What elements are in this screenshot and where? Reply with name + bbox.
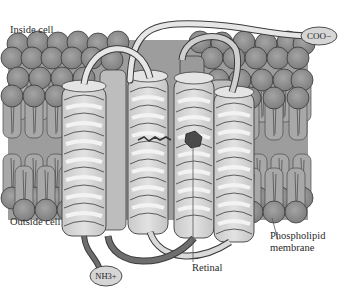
outside-cell-label: Outside cell: [10, 216, 60, 228]
helix-4: [214, 86, 254, 242]
phospholipid-label: Phospholipid: [270, 230, 325, 242]
helix-1: [62, 80, 106, 236]
inside-cell-label: Inside cell: [10, 24, 53, 36]
helix-2: [128, 70, 168, 234]
n-terminus-label: NH3+: [90, 267, 122, 285]
helix-3: [174, 72, 214, 238]
diagram-canvas: [0, 0, 351, 300]
c-terminus-label: COO−: [301, 27, 337, 45]
membrane-label: membrane: [270, 242, 314, 254]
membrane-protein-diagram: Inside cell Outside cell COO− NH3+ Retin…: [0, 0, 351, 300]
protein-helices: [62, 56, 254, 242]
retinal-label: Retinal: [192, 262, 222, 274]
